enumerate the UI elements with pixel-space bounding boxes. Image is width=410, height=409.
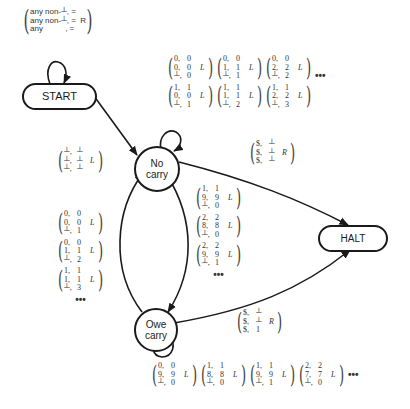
matrix-cell: 2 [77,256,87,265]
state-no-carry: No carry [134,146,180,192]
matrix-cell: 2 [285,72,295,81]
matrix-cell: ┴, [64,256,77,265]
matrix-cell: 0 [220,379,230,388]
state-start-label: START [42,91,77,102]
label-nocarry-to-owecarry: (1,19,9┴,0L)(2,28,8┴,0L)(2,29,9┴,1L)••• [196,185,241,279]
left-paren: ( [59,267,62,293]
matrix-cell: ┴, [223,101,236,110]
matrix-cell: ┴, [174,72,187,81]
head-direction: L [247,55,257,81]
matrix-cell: ┴, [256,379,269,388]
left-paren: ( [59,239,62,265]
left-paren: ( [251,140,254,166]
matrix-cell: 2 [236,101,246,110]
matrix-cell: ┴, [64,284,77,293]
state-owe-carry-line2: carry [145,330,167,341]
left-paren: ( [251,362,254,388]
matrix-cell: 3 [285,101,295,110]
label-owecarry-to-halt: ($,┴$,┴$,1R) [237,309,282,335]
state-owe-carry-line1: Owe [145,319,167,330]
matrix-cell: 0 [215,231,225,240]
state-start: START [22,83,97,110]
right-paren: ) [99,267,102,293]
head-direction: L [231,362,241,388]
matrix-cell: ┴, [64,227,77,236]
ellipsis: ••• [75,296,86,305]
state-halt: HALT [318,225,388,252]
right-paren: ) [237,185,240,211]
matrix-cell: 1 [187,101,197,110]
matrix-cell: 1 [236,72,246,81]
right-paren: ) [242,362,245,388]
transition-matrix: (1,11,1┴,2L) [217,84,262,110]
right-paren: ) [291,140,294,166]
left-paren: ( [267,55,270,81]
transition-matrix: (0,00,0┴,1L) [58,210,103,236]
right-paren: ) [258,55,261,81]
ellipsis: ••• [348,371,359,380]
matrix-row: ┴,0 [202,231,225,240]
head-direction: L [329,362,339,388]
head-direction: L [198,55,208,81]
head-direction: R [280,140,290,166]
transition-matrix: (0,09,9┴,0L) [152,362,197,388]
transition-matrix: (2,29,9┴,1L) [196,242,241,268]
left-paren: ( [238,309,241,335]
head-direction: L [296,55,306,81]
transition-matrix: ($,┴$,┴$,┴R) [250,140,295,166]
matrix-row: ┴,2 [272,72,295,81]
matrix-cell: 1 [215,259,225,268]
ellipsis: ••• [213,271,224,280]
left-paren: ( [169,55,172,81]
matrix-cell: $, [243,326,256,335]
transition-matrix: (1,12,2┴,3L) [266,84,311,110]
left-paren: ( [59,148,62,174]
matrix-cell: ┴, [223,72,236,81]
matrix-row: ┴,1 [202,259,225,268]
transition-matrix: ($,┴$,┴$,1R) [237,309,282,335]
right-paren: ) [88,8,91,34]
right-paren: ) [291,362,294,388]
matrix-cell: ┴, [174,101,187,110]
left-paren: ( [197,214,200,240]
matrix-row: ┴,0 [207,379,230,388]
head-direction: L [296,84,306,110]
right-paren: ) [237,242,240,268]
matrix-row: ┴,2 [64,256,87,265]
start-self-loop [48,62,66,84]
matrix-cell: ┴, [305,379,318,388]
head-direction: L [226,185,236,211]
right-paren: ) [193,362,196,388]
state-no-carry-line1: No [146,158,168,169]
right-paren: ) [278,309,281,335]
matrix-cell: ┴, [202,202,215,211]
left-paren: ( [153,362,156,388]
matrix-cell: ┴, [158,379,171,388]
right-paren: ) [209,55,212,81]
label-nocarry-loop: (0,00,0┴,0L)(0,01,1┴,1L)(0,02,2┴,2L)•••(… [168,55,326,109]
right-paren: ) [307,84,310,110]
left-paren: ( [25,8,28,34]
head-direction: R [267,309,277,335]
matrix-cell: 1 [256,326,266,335]
head-direction: L [198,84,208,110]
matrix-row: $,1 [243,326,266,335]
right-paren: ) [237,214,240,240]
matrix-row: ┴,1 [174,101,197,110]
label-owecarry-loop: (0,09,9┴,0L)(1,18,8┴,0L)(1,19,9┴,1L)(2,2… [152,362,359,388]
matrix-row: ┴,3 [272,101,295,110]
edge-nocarry-to-owecarry [167,175,188,312]
label-nocarry-to-halt: ($,┴$,┴$,┴R) [250,140,295,166]
transition-matrix: (1,10,0┴,1L) [168,84,213,110]
matrix-cell: ┴, [207,379,220,388]
head-direction: L [247,84,257,110]
right-paren: ) [209,84,212,110]
left-paren: ( [218,84,221,110]
transition-matrix: (1,19,9┴,1L) [250,362,295,388]
matrix-cell: 1 [269,379,279,388]
transition-matrix: (1,19,9┴,0L) [196,185,241,211]
left-paren: ( [59,210,62,236]
left-paren: ( [300,362,303,388]
matrix-cell: 0 [215,202,225,211]
right-paren: ) [340,362,343,388]
